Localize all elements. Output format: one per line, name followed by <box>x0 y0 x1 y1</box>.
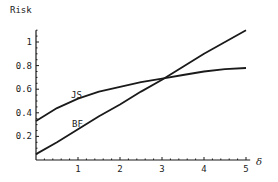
y-tick-label: 0.4 <box>16 108 32 118</box>
risk-chart: 123450.20.40.60.81 Risk δ JS BF <box>0 0 278 182</box>
bf-curve <box>36 30 246 154</box>
curves <box>36 30 246 154</box>
y-tick-label: 0.2 <box>16 131 32 141</box>
x-axis-title: δ <box>256 156 262 167</box>
axes: 123450.20.40.60.81 <box>16 30 250 174</box>
x-tick-label: 1 <box>75 164 80 174</box>
bf-curve-label: BF <box>72 119 83 129</box>
y-tick-label: 0.6 <box>16 84 32 94</box>
x-tick-label: 5 <box>243 164 248 174</box>
x-tick-label: 3 <box>159 164 164 174</box>
y-axis-title: Risk <box>10 5 32 15</box>
js-curve <box>36 68 246 121</box>
js-curve-label: JS <box>71 90 82 100</box>
x-tick-label: 2 <box>117 164 122 174</box>
y-tick-label: 1 <box>27 37 32 47</box>
y-tick-label: 0.8 <box>16 61 32 71</box>
x-tick-label: 4 <box>201 164 206 174</box>
